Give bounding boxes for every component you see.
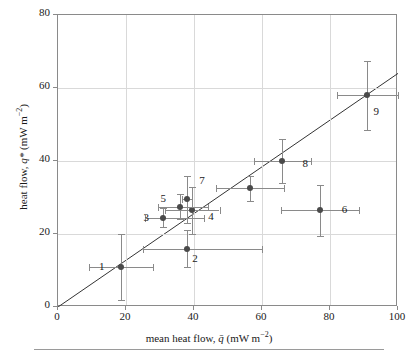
error-bar-cap [160, 227, 167, 228]
data-point-label: 7 [199, 174, 205, 186]
y-axis-title-text: heat flow, [17, 164, 29, 210]
x-tick-label: 40 [173, 310, 213, 322]
error-bar-cap [204, 215, 205, 222]
error-bar-cap [192, 196, 193, 203]
error-bar-cap [184, 176, 191, 177]
x-tick-label: 20 [105, 310, 145, 322]
error-bar-cap [182, 196, 183, 203]
error-bar-cap [279, 139, 286, 140]
error-bar-cap [364, 61, 371, 62]
error-bar-cap [177, 219, 184, 220]
data-point-label: 1 [99, 260, 105, 272]
error-bar-cap [184, 230, 191, 231]
error-bar-cap [158, 204, 159, 211]
x-tick-label: 80 [309, 310, 349, 322]
error-bar-cap [311, 158, 312, 165]
y-tick-label: 0 [10, 298, 50, 310]
y-tick [53, 160, 57, 161]
x-axis-title-text: mean heat flow, [146, 332, 219, 344]
gridline-horizontal [58, 234, 396, 235]
x-axis-paren: ) [269, 332, 273, 344]
data-point[interactable] [184, 246, 190, 252]
figure: 123456789 heat flow, q* (mW m−2) mean he… [0, 0, 418, 356]
error-bar-cap [165, 207, 166, 214]
y-tick-label: 40 [10, 152, 50, 164]
error-bar-cap [184, 267, 191, 268]
y-tick-label: 60 [10, 79, 50, 91]
error-bar-cap [208, 204, 209, 211]
error-bar-cap [189, 187, 196, 188]
y-tick [53, 233, 57, 234]
footer-rule [34, 349, 384, 350]
data-point-label: 3 [143, 211, 149, 223]
y-tick [53, 87, 57, 88]
error-bar-cap [281, 207, 282, 214]
data-point-label: 5 [160, 192, 166, 204]
error-bar-cap [189, 234, 196, 235]
data-point-label: 2 [192, 252, 198, 264]
y-tick-label: 20 [10, 225, 50, 237]
y-axis-exponent: −2 [15, 108, 24, 117]
error-bar-cap [220, 207, 221, 214]
error-bar-cap [398, 92, 399, 99]
data-point[interactable] [118, 264, 124, 270]
error-bar-cap [216, 185, 217, 192]
x-axis-title: mean heat flow, q̄ (mW m−2) [0, 330, 418, 344]
error-bar-cap [89, 264, 90, 271]
data-point-label: 9 [373, 105, 379, 117]
y-tick [53, 14, 57, 15]
error-bar-cap [284, 185, 285, 192]
error-bar-cap [118, 300, 125, 301]
y-axis-unit: (mW m [17, 116, 29, 152]
error-bar-cap [337, 92, 338, 99]
y-tick [53, 306, 57, 307]
gridline-horizontal [58, 161, 396, 162]
x-axis-unit: (mW m [224, 332, 260, 344]
x-axis-exponent: −2 [260, 330, 269, 339]
error-bar-cap [317, 236, 324, 237]
data-point-label: 8 [302, 157, 308, 169]
error-bar-cap [177, 194, 184, 195]
y-tick-label: 80 [10, 6, 50, 18]
error-bar-cap [247, 201, 254, 202]
gridline-vertical [262, 15, 263, 305]
gridline-horizontal [58, 88, 396, 89]
error-bar-cap [254, 158, 255, 165]
error-bar-horizontal [145, 218, 205, 219]
error-bar-cap [317, 185, 324, 186]
error-bar-cap [247, 176, 254, 177]
x-tick-label: 0 [37, 310, 77, 322]
error-bar-cap [364, 130, 371, 131]
plot-area: 123456789 [57, 14, 397, 306]
error-bar-cap [359, 207, 360, 214]
error-bar-cap [279, 183, 286, 184]
error-bar-cap [118, 234, 125, 235]
gridline-vertical [126, 15, 127, 305]
data-point-label: 4 [208, 210, 214, 222]
y-axis-paren: ) [17, 104, 29, 108]
x-tick-label: 100 [377, 310, 417, 322]
error-bar-cap [262, 246, 263, 253]
x-tick-label: 60 [241, 310, 281, 322]
data-point[interactable] [160, 215, 166, 221]
data-point-label: 6 [342, 203, 348, 215]
error-bar-horizontal [143, 249, 262, 250]
error-bar-cap [153, 264, 154, 271]
gridline-vertical [330, 15, 331, 305]
error-bar-cap [184, 223, 191, 224]
error-bar-cap [143, 246, 144, 253]
